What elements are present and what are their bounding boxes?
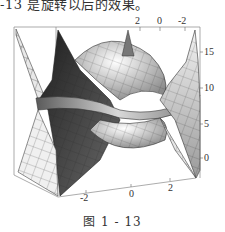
right-tick-5: 5 xyxy=(204,118,209,129)
right-tick-10: 10 xyxy=(204,82,214,93)
top-tick-2: 2 xyxy=(135,15,140,26)
bottom-tick-0: 0 xyxy=(129,188,134,199)
top-tick-0: 0 xyxy=(157,15,162,26)
figure-caption: 图 1 - 13 xyxy=(0,212,225,229)
right-tick-15: 15 xyxy=(204,46,214,57)
bottom-tick-neg2: -2 xyxy=(80,192,88,203)
surface-plot xyxy=(0,0,225,232)
right-tick-0: 0 xyxy=(204,152,209,163)
bottom-tick-2: 2 xyxy=(168,182,173,193)
top-tick-neg2: -2 xyxy=(178,15,186,26)
